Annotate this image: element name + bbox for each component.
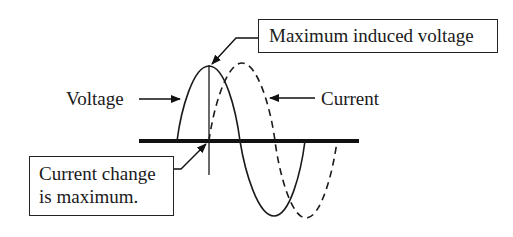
current-label: Current — [321, 88, 379, 110]
max-induced-voltage-callout: Maximum induced voltage — [258, 19, 498, 53]
voltage-label: Voltage — [66, 88, 124, 110]
max-voltage-leader — [212, 38, 258, 64]
current-change-callout: Current change is maximum. — [29, 156, 174, 216]
current-change-line2: is maximum. — [39, 185, 173, 208]
current-change-line1: Current change — [39, 162, 173, 185]
max-induced-voltage-text: Maximum induced voltage — [269, 24, 497, 47]
current-change-leader — [174, 144, 206, 169]
